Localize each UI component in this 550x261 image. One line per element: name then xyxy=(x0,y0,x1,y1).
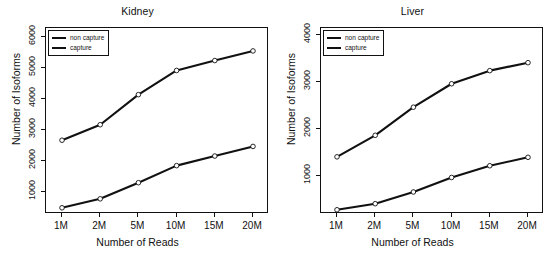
legend-item-capture: capture xyxy=(52,44,104,52)
figure-two-panel-line-charts: Kidney Number of Isoforms 10002000300040… xyxy=(0,0,550,261)
y-tick-mark xyxy=(41,191,45,192)
data-point-marker xyxy=(373,201,378,206)
y-tick-mark xyxy=(41,98,45,99)
x-tick-mark xyxy=(374,213,375,217)
x-tick-mark xyxy=(214,213,215,217)
x-tick-mark xyxy=(137,213,138,217)
y-tick-label: 2000 xyxy=(302,112,312,142)
y-tick-label: 6000 xyxy=(27,20,37,50)
data-point-marker xyxy=(60,206,65,211)
y-tick-label: 4000 xyxy=(27,82,37,112)
x-tick-label: 10M xyxy=(166,220,185,231)
data-point-marker xyxy=(335,155,340,160)
data-point-marker xyxy=(335,207,340,212)
legend-kidney: non capture capture xyxy=(48,30,109,56)
x-tick-mark xyxy=(527,213,528,217)
data-point-marker xyxy=(373,133,378,138)
panel-liver: Liver Number of Isoforms 100020003000400… xyxy=(275,0,550,261)
x-tick-label: 5M xyxy=(405,220,419,231)
data-point-marker xyxy=(488,68,493,73)
data-point-marker xyxy=(174,163,179,168)
series-line-capture xyxy=(337,157,528,209)
x-tick-mark xyxy=(336,213,337,217)
x-tick-label: 20M xyxy=(242,220,261,231)
data-point-marker xyxy=(213,58,218,63)
data-point-marker xyxy=(136,92,141,97)
data-point-marker xyxy=(526,155,531,160)
y-tick-label: 4000 xyxy=(302,18,312,48)
x-tick-mark xyxy=(252,213,253,217)
panel-title-kidney: Kidney xyxy=(0,5,275,17)
x-tick-label: 1M xyxy=(54,220,68,231)
data-point-marker xyxy=(213,154,218,159)
legend-liver: non capture capture xyxy=(323,30,384,56)
legend-item-non-capture: non capture xyxy=(52,34,104,42)
y-tick-mark xyxy=(316,81,320,82)
y-tick-label: 3000 xyxy=(27,113,37,143)
legend-line-icon xyxy=(52,47,66,49)
x-tick-label: 15M xyxy=(479,220,498,231)
y-tick-mark xyxy=(41,67,45,68)
data-point-marker xyxy=(449,175,454,180)
data-point-marker xyxy=(488,163,493,168)
y-tick-label: 1000 xyxy=(302,159,312,189)
y-tick-label: 3000 xyxy=(302,65,312,95)
x-axis-title-liver: Number of Reads xyxy=(275,236,550,248)
y-axis-title-kidney: Number of Isoforms xyxy=(10,0,22,249)
data-point-marker xyxy=(526,60,531,65)
data-point-marker xyxy=(449,81,454,86)
x-tick-label: 15M xyxy=(204,220,223,231)
legend-item-non-capture: non capture xyxy=(327,34,379,42)
y-tick-mark xyxy=(316,175,320,176)
x-tick-mark xyxy=(99,213,100,217)
y-axis-title-liver: Number of Isoforms xyxy=(285,0,297,249)
y-tick-label: 1000 xyxy=(27,175,37,205)
x-tick-label: 20M xyxy=(517,220,536,231)
y-tick-mark xyxy=(41,160,45,161)
legend-line-icon xyxy=(327,47,341,49)
data-point-marker xyxy=(98,122,103,127)
x-tick-label: 1M xyxy=(329,220,343,231)
y-tick-mark xyxy=(41,129,45,130)
legend-label-non-capture: non capture xyxy=(70,34,104,42)
panel-title-liver: Liver xyxy=(275,5,550,17)
x-tick-label: 5M xyxy=(130,220,144,231)
legend-label-capture: capture xyxy=(345,44,367,52)
data-point-marker xyxy=(136,180,141,185)
y-tick-mark xyxy=(41,36,45,37)
panel-kidney: Kidney Number of Isoforms 10002000300040… xyxy=(0,0,275,261)
x-tick-label: 2M xyxy=(367,220,381,231)
y-tick-label: 2000 xyxy=(27,144,37,174)
x-tick-label: 2M xyxy=(92,220,106,231)
legend-label-non-capture: non capture xyxy=(345,34,379,42)
data-point-marker xyxy=(174,68,179,73)
x-tick-mark xyxy=(451,213,452,217)
data-point-marker xyxy=(98,197,103,202)
legend-label-capture: capture xyxy=(70,44,92,52)
data-point-marker xyxy=(251,144,256,149)
x-tick-mark xyxy=(176,213,177,217)
y-tick-mark xyxy=(316,34,320,35)
data-point-marker xyxy=(411,190,416,195)
legend-line-icon xyxy=(52,37,66,39)
x-tick-mark xyxy=(61,213,62,217)
y-tick-label: 5000 xyxy=(27,51,37,81)
data-point-marker xyxy=(251,49,256,54)
x-tick-mark xyxy=(489,213,490,217)
y-tick-mark xyxy=(316,128,320,129)
data-point-marker xyxy=(411,105,416,110)
x-tick-label: 10M xyxy=(441,220,460,231)
series-line-capture xyxy=(62,146,253,207)
legend-item-capture: capture xyxy=(327,44,379,52)
legend-line-icon xyxy=(327,37,341,39)
data-point-marker xyxy=(60,138,65,143)
x-axis-title-kidney: Number of Reads xyxy=(0,236,275,248)
series-line-non-capture xyxy=(62,51,253,140)
series-line-non-capture xyxy=(337,63,528,157)
x-tick-mark xyxy=(412,213,413,217)
